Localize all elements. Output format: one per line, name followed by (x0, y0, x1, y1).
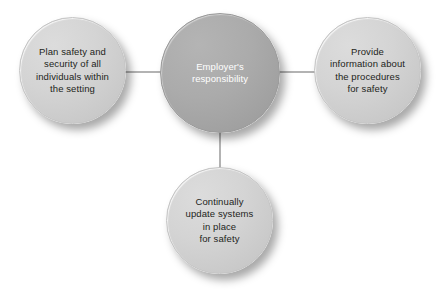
node-plan-safety-label: Plan safety and security of all individu… (29, 46, 116, 96)
node-update-systems: Continually update systems in place for … (166, 167, 273, 274)
node-plan-safety: Plan safety and security of all individu… (19, 17, 126, 124)
node-provide-information: Provide information about the procedures… (314, 17, 421, 124)
node-update-systems-label: Continually update systems in place for … (179, 196, 261, 246)
connector-hub-to-plan-safety (124, 71, 162, 73)
employer-responsibility-diagram: Plan safety and security of all individu… (0, 0, 436, 302)
connector-hub-to-update-systems (219, 131, 221, 169)
node-employer-responsibility-label: Employer's responsibility (185, 61, 255, 86)
node-employer-responsibility: Employer's responsibility (160, 13, 280, 133)
connector-hub-to-provide-information (278, 71, 316, 73)
node-provide-information-label: Provide information about the procedures… (323, 46, 412, 96)
